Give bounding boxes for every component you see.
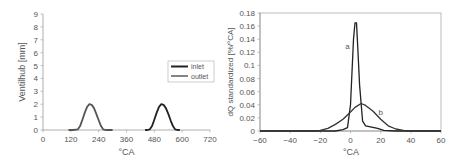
y-tick-label: 6 bbox=[34, 49, 39, 58]
x-tick-label: −20 bbox=[314, 136, 328, 145]
heat-release-chart: 00.020.040.060.080.10.120.140.160.18 −60… bbox=[226, 9, 446, 157]
y-tick-label: 0.02 bbox=[239, 114, 255, 123]
x-tick-label: 40 bbox=[406, 136, 415, 145]
y-tick-label: 0.16 bbox=[239, 22, 255, 31]
x-tick-label: 0 bbox=[348, 136, 353, 145]
y-tick-label: 0.04 bbox=[239, 101, 255, 110]
y-tick-label: 7 bbox=[34, 36, 39, 45]
annotation-b: b bbox=[378, 108, 383, 117]
annotation-a: a bbox=[345, 42, 350, 51]
x-tick-label: 720 bbox=[203, 135, 217, 144]
y-tick-label: 9 bbox=[34, 10, 39, 19]
legend-item-outlet: outlet bbox=[191, 73, 208, 80]
plot-series bbox=[260, 23, 441, 131]
y-tick-label: 0.14 bbox=[239, 35, 255, 44]
x-tick-label: 240 bbox=[92, 135, 106, 144]
y-axis: 00.020.040.060.080.10.120.140.160.18 bbox=[239, 9, 260, 136]
figure: 0123456789 0120240360480600720 °CA Venti… bbox=[0, 0, 463, 163]
y-tick-label: 0.08 bbox=[239, 75, 255, 84]
series-a bbox=[260, 23, 441, 131]
legend: inlet outlet bbox=[168, 61, 214, 82]
x-tick-label: −40 bbox=[283, 136, 297, 145]
y-tick-label: 0 bbox=[34, 126, 39, 135]
x-tick-label: 0 bbox=[41, 135, 46, 144]
y-tick-label: 1 bbox=[34, 113, 39, 122]
x-axis: 0120240360480600720 bbox=[41, 130, 217, 144]
valve-lift-chart: 0123456789 0120240360480600720 °CA Venti… bbox=[17, 10, 217, 157]
y-tick-label: 2 bbox=[34, 100, 39, 109]
y-axis: 0123456789 bbox=[34, 10, 43, 135]
x-tick-label: 60 bbox=[437, 136, 446, 145]
y-tick-label: 8 bbox=[34, 23, 39, 32]
x-tick-label: 600 bbox=[175, 135, 189, 144]
x-tick-label: 360 bbox=[120, 135, 134, 144]
x-tick-label: 120 bbox=[64, 135, 78, 144]
x-axis-label: °CA bbox=[343, 147, 359, 157]
y-tick-label: 0.12 bbox=[239, 48, 255, 57]
series-inlet bbox=[145, 104, 180, 130]
y-axis-label: Ventilhub [mm] bbox=[17, 42, 27, 102]
x-tick-label: −60 bbox=[253, 136, 267, 145]
y-tick-label: 4 bbox=[34, 74, 39, 83]
y-tick-label: 0 bbox=[251, 127, 256, 136]
y-tick-label: 0.06 bbox=[239, 88, 255, 97]
plot-frame bbox=[260, 13, 441, 131]
x-tick-label: 20 bbox=[376, 136, 385, 145]
y-tick-label: 5 bbox=[34, 62, 39, 71]
legend-item-inlet: inlet bbox=[191, 63, 204, 70]
plot-series bbox=[69, 104, 180, 130]
y-axis-label: dQ standardized [%/°CA] bbox=[226, 27, 235, 116]
x-tick-label: 480 bbox=[148, 135, 162, 144]
y-tick-label: 0.18 bbox=[239, 9, 255, 18]
y-tick-label: 0.1 bbox=[244, 61, 256, 70]
x-axis: −60−40−200204060 bbox=[253, 131, 446, 145]
y-tick-label: 3 bbox=[34, 87, 39, 96]
x-axis-label: °CA bbox=[118, 147, 134, 157]
series-outlet bbox=[69, 104, 113, 130]
